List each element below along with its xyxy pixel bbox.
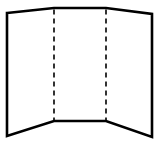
trifold-board-diagram [0, 0, 164, 150]
background [0, 0, 164, 150]
